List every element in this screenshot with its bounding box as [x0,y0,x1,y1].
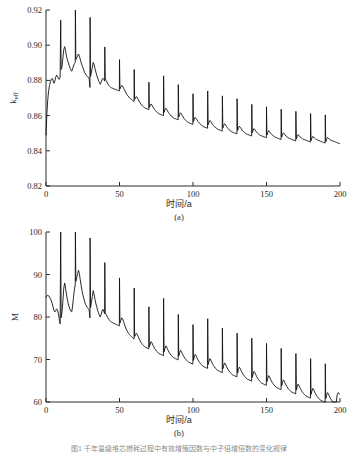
axes-b: 60708090100 050100150200 [29,227,346,415]
chart-svg-a: 0.820.840.860.880.900.92 050100150200 ke… [0,0,358,226]
svg-text:100: 100 [29,227,42,237]
svg-text:50: 50 [115,189,124,199]
x-tick-labels-a: 050100150200 [44,189,347,199]
x-axis-title-b: 时间/a [166,414,192,425]
data-line-b [46,232,340,402]
svg-text:80: 80 [34,312,43,322]
svg-text:200: 200 [334,405,347,415]
figure-caption: 图1 千年量级堆芯燃耗过程中有效增殖因数与中子倍增倍数的变化规律 [0,445,358,453]
y-axis-title-b: M [10,313,20,321]
svg-text:M: M [10,313,20,321]
svg-text:0: 0 [44,405,48,415]
y-axis-title-a: keff [8,91,19,103]
subcaption-b: (b) [174,428,184,438]
svg-text:150: 150 [260,405,273,415]
plot-area-a: 0.820.840.860.880.900.92 050100150200 ke… [0,0,358,226]
svg-text:0.92: 0.92 [27,5,42,15]
subcaption-a: (a) [174,212,184,222]
figure-container: 0.820.840.860.880.900.92 050100150200 ke… [0,0,358,453]
data-line-a [46,10,340,144]
x-tick-marks-b [46,398,340,402]
svg-text:0.84: 0.84 [27,146,43,156]
svg-text:keff: keff [8,91,19,103]
svg-text:100: 100 [187,189,200,199]
y-tick-marks-b [46,232,50,402]
x-tick-marks-a [46,182,340,186]
svg-text:0.90: 0.90 [27,40,42,50]
svg-text:0.88: 0.88 [27,75,42,85]
svg-text:0.82: 0.82 [27,181,42,191]
svg-text:70: 70 [34,355,43,365]
chart-panel-a: 0.820.840.860.880.900.92 050100150200 ke… [0,0,358,226]
svg-text:60: 60 [34,397,43,407]
svg-text:0: 0 [44,189,48,199]
y-tick-labels-b: 60708090100 [29,227,42,407]
svg-text:100: 100 [187,405,200,415]
x-axis-title-a: 时间/a [166,198,192,209]
x-tick-labels-b: 050100150200 [44,405,347,415]
chart-panel-b: 60708090100 050100150200 M 时间/a (b) [0,226,358,452]
svg-text:90: 90 [34,270,43,280]
svg-text:200: 200 [334,189,347,199]
plot-area-b: 60708090100 050100150200 M 时间/a (b) [0,226,358,452]
svg-text:50: 50 [115,405,124,415]
y-tick-labels-a: 0.820.840.860.880.900.92 [27,5,43,191]
svg-text:0.86: 0.86 [27,111,42,121]
chart-svg-b: 60708090100 050100150200 M 时间/a (b) [0,226,358,452]
svg-text:150: 150 [260,189,273,199]
